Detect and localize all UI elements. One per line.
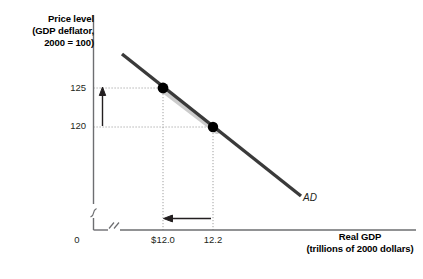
axis-break-marks [91, 209, 120, 229]
origin-label: 0 [70, 234, 84, 245]
x-axis-break-icon-2 [114, 223, 119, 229]
x-axis-title-line2: (trillions of 2000 dollars) [300, 243, 420, 255]
x-tick-label-12-0: $12.0 [140, 234, 186, 245]
real-gdp-decrease-arrow [164, 215, 212, 222]
demand-curve-chart: Price level (GDP deflator, 2000 = 100) R… [0, 0, 423, 279]
ad-curve-label: AD [303, 192, 317, 203]
y-tick-label-125: 125 [60, 82, 86, 93]
x-axis-title: Real GDP (trillions of 2000 dollars) [300, 231, 420, 255]
guide-lines [94, 88, 214, 230]
axis-lines [94, 15, 417, 230]
x-tick-label-12-2: 12.2 [192, 234, 234, 245]
x-axis-title-line1: Real GDP [300, 231, 420, 243]
point-b-marker [208, 122, 218, 132]
y-tick-label-120: 120 [60, 120, 86, 131]
y-axis-title-line3: 2000 = 100) [20, 37, 94, 49]
y-axis-title: Price level (GDP deflator, 2000 = 100) [20, 13, 94, 50]
price-level-increase-arrow [99, 87, 105, 126]
y-axis-title-line2: (GDP deflator, [20, 25, 94, 37]
y-axis-title-line1: Price level [20, 13, 94, 25]
x-axis-break-icon-1 [109, 223, 114, 229]
point-a-marker [158, 83, 169, 94]
y-axis-break-icon [91, 209, 97, 218]
